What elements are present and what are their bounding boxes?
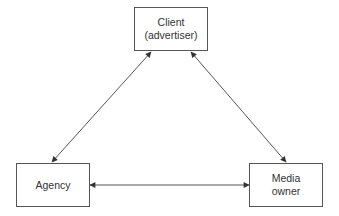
node-agency-label: Agency [35,179,70,192]
node-client: Client (advertiser) [134,7,208,51]
node-media-owner-line-2: owner [272,185,301,198]
edge-client-agency [52,52,151,162]
node-media-owner-line-1: Media [272,172,301,185]
node-client-line-2: (advertiser) [144,29,197,42]
node-client-line-1: Client [158,16,185,29]
node-agency: Agency [16,163,90,207]
edge-client-media-owner [191,52,286,162]
node-media-owner: Media owner [249,163,323,207]
